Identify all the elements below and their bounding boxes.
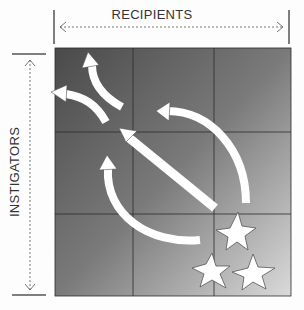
instigators-axis-bracket — [12, 54, 46, 295]
recipients-axis-bracket — [54, 10, 289, 44]
diagram-canvas — [0, 0, 304, 310]
